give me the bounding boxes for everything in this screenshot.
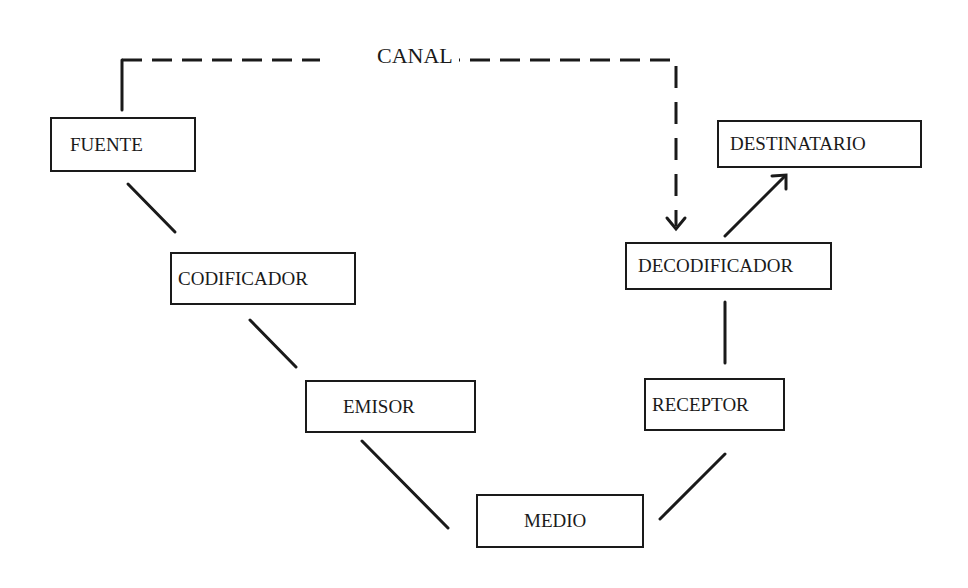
node-codificador: CODIFICADOR <box>170 252 356 305</box>
node-destinatario-label: DESTINATARIO <box>730 133 866 155</box>
canal-label: CANAL <box>371 43 459 69</box>
line-decodificador-destinatario <box>725 176 785 236</box>
line-medio-receptor <box>660 454 725 519</box>
node-medio-label: MEDIO <box>524 510 586 532</box>
line-fuente-codificador <box>128 184 175 232</box>
node-codificador-label: CODIFICADOR <box>178 268 308 290</box>
node-decodificador-label: DECODIFICADOR <box>638 255 793 277</box>
node-receptor: RECEPTOR <box>644 378 785 431</box>
node-emisor-label: EMISOR <box>343 396 415 418</box>
node-destinatario: DESTINATARIO <box>717 120 922 168</box>
node-fuente: FUENTE <box>50 117 196 172</box>
node-emisor: EMISOR <box>305 380 476 433</box>
line-emisor-medio <box>362 441 448 528</box>
node-decodificador: DECODIFICADOR <box>625 242 832 290</box>
line-codificador-emisor <box>250 320 296 367</box>
node-receptor-label: RECEPTOR <box>652 394 749 416</box>
node-fuente-label: FUENTE <box>70 134 143 156</box>
node-medio: MEDIO <box>476 494 644 548</box>
